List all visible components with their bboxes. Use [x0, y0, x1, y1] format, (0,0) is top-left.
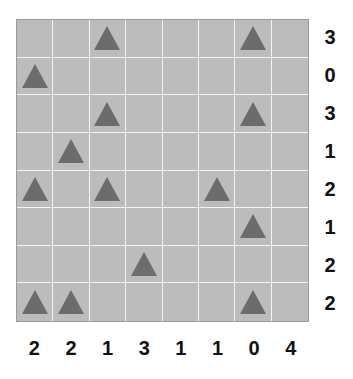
tree-triangle-icon — [94, 177, 120, 201]
grid-cell-r5-c7[interactable] — [272, 208, 308, 246]
tree-triangle-icon — [22, 290, 48, 314]
grid-cell-r0-c2[interactable] — [90, 20, 126, 58]
column-clue-3: 3 — [126, 330, 163, 366]
grid-cell-r7-c2[interactable] — [90, 283, 126, 321]
row-clue-1: 0 — [318, 57, 342, 95]
grid-cell-r0-c1[interactable] — [53, 20, 89, 58]
grid-cell-r7-c4[interactable] — [163, 283, 199, 321]
grid-cell-r7-c7[interactable] — [272, 283, 308, 321]
puzzle-grid — [16, 19, 309, 322]
grid-cell-r6-c7[interactable] — [272, 246, 308, 284]
grid-cell-r5-c5[interactable] — [199, 208, 235, 246]
row-clue-3: 1 — [318, 133, 342, 171]
row-clue-5: 1 — [318, 208, 342, 246]
grid-cell-r0-c7[interactable] — [272, 20, 308, 58]
grid-cell-r2-c1[interactable] — [53, 95, 89, 133]
tree-triangle-icon — [94, 26, 120, 50]
grid-cell-r1-c3[interactable] — [126, 58, 162, 96]
grid-cell-r3-c4[interactable] — [163, 133, 199, 171]
grid-cell-r0-c6[interactable] — [235, 20, 271, 58]
grid-cell-r3-c2[interactable] — [90, 133, 126, 171]
grid-cell-r0-c0[interactable] — [17, 20, 53, 58]
tree-triangle-icon — [240, 214, 266, 238]
column-clue-7: 4 — [272, 330, 309, 366]
column-clue-0: 2 — [16, 330, 53, 366]
tree-triangle-icon — [58, 139, 84, 163]
column-clue-1: 2 — [53, 330, 90, 366]
grid-cell-r6-c4[interactable] — [163, 246, 199, 284]
grid-cell-r6-c1[interactable] — [53, 246, 89, 284]
grid-cell-r3-c6[interactable] — [235, 133, 271, 171]
row-clue-0: 3 — [318, 19, 342, 57]
tree-triangle-icon — [204, 177, 230, 201]
grid-cell-r7-c1[interactable] — [53, 283, 89, 321]
grid-cell-r3-c3[interactable] — [126, 133, 162, 171]
grid-cell-r6-c6[interactable] — [235, 246, 271, 284]
grid-cell-r1-c2[interactable] — [90, 58, 126, 96]
tree-triangle-icon — [240, 290, 266, 314]
row-clue-2: 3 — [318, 95, 342, 133]
grid-cell-r1-c5[interactable] — [199, 58, 235, 96]
grid-cell-r1-c4[interactable] — [163, 58, 199, 96]
grid-cell-r6-c3[interactable] — [126, 246, 162, 284]
tree-triangle-icon — [131, 252, 157, 276]
grid-cell-r1-c1[interactable] — [53, 58, 89, 96]
column-clue-2: 1 — [89, 330, 126, 366]
grid-cell-r2-c7[interactable] — [272, 95, 308, 133]
grid-cell-r5-c3[interactable] — [126, 208, 162, 246]
column-clue-5: 1 — [199, 330, 236, 366]
grid-cell-r7-c0[interactable] — [17, 283, 53, 321]
grid-cell-r3-c1[interactable] — [53, 133, 89, 171]
grid-cell-r2-c2[interactable] — [90, 95, 126, 133]
grid-cell-r4-c6[interactable] — [235, 171, 271, 209]
grid-cell-r6-c2[interactable] — [90, 246, 126, 284]
grid-cell-r1-c0[interactable] — [17, 58, 53, 96]
grid-cell-r2-c6[interactable] — [235, 95, 271, 133]
grid-cell-r6-c5[interactable] — [199, 246, 235, 284]
tree-triangle-icon — [240, 26, 266, 50]
grid-cell-r4-c7[interactable] — [272, 171, 308, 209]
tree-triangle-icon — [94, 102, 120, 126]
tree-triangle-icon — [22, 64, 48, 88]
grid-cell-r7-c5[interactable] — [199, 283, 235, 321]
grid-cell-r3-c7[interactable] — [272, 133, 308, 171]
grid-cell-r5-c0[interactable] — [17, 208, 53, 246]
grid-cell-r5-c1[interactable] — [53, 208, 89, 246]
grid-cell-r0-c5[interactable] — [199, 20, 235, 58]
row-clues: 30312122 — [318, 19, 342, 322]
grid-cell-r2-c4[interactable] — [163, 95, 199, 133]
grid-cell-r5-c2[interactable] — [90, 208, 126, 246]
grid-cell-r2-c5[interactable] — [199, 95, 235, 133]
row-clue-7: 2 — [318, 284, 342, 322]
grid-cell-r1-c7[interactable] — [272, 58, 308, 96]
tree-triangle-icon — [22, 177, 48, 201]
grid-cell-r6-c0[interactable] — [17, 246, 53, 284]
grid-cell-r3-c0[interactable] — [17, 133, 53, 171]
grid-cell-r7-c6[interactable] — [235, 283, 271, 321]
grid-cell-r3-c5[interactable] — [199, 133, 235, 171]
column-clues: 22131104 — [16, 330, 309, 366]
column-clue-4: 1 — [163, 330, 200, 366]
grid-cell-r4-c3[interactable] — [126, 171, 162, 209]
grid-cell-r2-c3[interactable] — [126, 95, 162, 133]
grid-cell-r4-c4[interactable] — [163, 171, 199, 209]
row-clue-4: 2 — [318, 171, 342, 209]
grid-cell-r0-c3[interactable] — [126, 20, 162, 58]
grid-cell-r4-c5[interactable] — [199, 171, 235, 209]
grid-cell-r2-c0[interactable] — [17, 95, 53, 133]
grid-cell-r5-c6[interactable] — [235, 208, 271, 246]
row-clue-6: 2 — [318, 246, 342, 284]
grid-cell-r7-c3[interactable] — [126, 283, 162, 321]
column-clue-6: 0 — [236, 330, 273, 366]
grid-cell-r4-c0[interactable] — [17, 171, 53, 209]
tree-triangle-icon — [58, 290, 84, 314]
grid-cell-r4-c2[interactable] — [90, 171, 126, 209]
grid-cell-r5-c4[interactable] — [163, 208, 199, 246]
grid-cell-r1-c6[interactable] — [235, 58, 271, 96]
tree-triangle-icon — [240, 102, 266, 126]
grid-cell-r0-c4[interactable] — [163, 20, 199, 58]
grid-cell-r4-c1[interactable] — [53, 171, 89, 209]
